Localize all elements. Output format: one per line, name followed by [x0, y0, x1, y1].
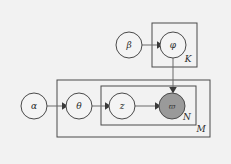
node-z[interactable]: z	[109, 93, 135, 119]
plate-diagram: K M N	[0, 0, 231, 164]
node-z-label: z	[119, 101, 125, 111]
node-theta[interactable]: θ	[66, 93, 92, 119]
node-theta-label: θ	[76, 101, 82, 111]
node-w-label: ϖ	[169, 102, 176, 111]
plate-k-label: K	[184, 54, 193, 64]
node-phi[interactable]: φ	[160, 32, 186, 58]
node-alpha[interactable]: α	[21, 93, 47, 119]
plate-m-label: M	[195, 124, 206, 134]
node-alpha-label: α	[31, 101, 37, 111]
node-w-observed[interactable]: ϖ	[159, 93, 185, 119]
plate-n-label: N	[182, 112, 192, 122]
node-beta-label: β	[125, 40, 131, 50]
figure-canvas: K M N	[0, 0, 231, 164]
diagram-background	[0, 0, 231, 164]
node-phi-label: φ	[170, 40, 177, 50]
node-beta[interactable]: β	[116, 32, 142, 58]
